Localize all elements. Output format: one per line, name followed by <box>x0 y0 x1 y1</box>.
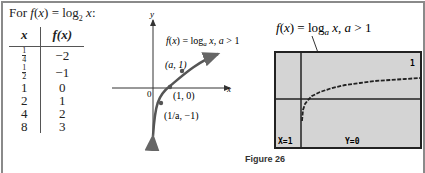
origin-label: 0 <box>147 89 152 99</box>
calculator-screen: f(x) = loga x, a > 1 1 X=1 Y=0 <box>275 20 421 148</box>
label-a-1: (a, 1) <box>165 59 187 71</box>
calc-indicator: 1 <box>410 59 415 68</box>
point-1a-neg1 <box>159 101 163 105</box>
log-graph: y x 0 (a, 1) (1, 0) (1/a, −1) f(x) = log… <box>112 9 239 145</box>
figure-caption: Figure 26 <box>245 154 285 164</box>
calc-y-readout: Y=0 <box>345 137 360 146</box>
point-1-0 <box>168 85 172 89</box>
calc-x-readout: X=1 <box>278 137 293 146</box>
calc-annotation: f(x) = loga x, a > 1 <box>276 20 371 37</box>
y-axis-label: y <box>149 9 154 19</box>
label-1-0: (1, 0) <box>173 90 195 102</box>
screen-bg <box>275 52 421 148</box>
x-axis-label: x <box>226 84 231 94</box>
function-label: f(x) = loga x, a > 1 <box>166 35 239 48</box>
label-1a-neg1: (1/a, −1) <box>164 110 199 122</box>
